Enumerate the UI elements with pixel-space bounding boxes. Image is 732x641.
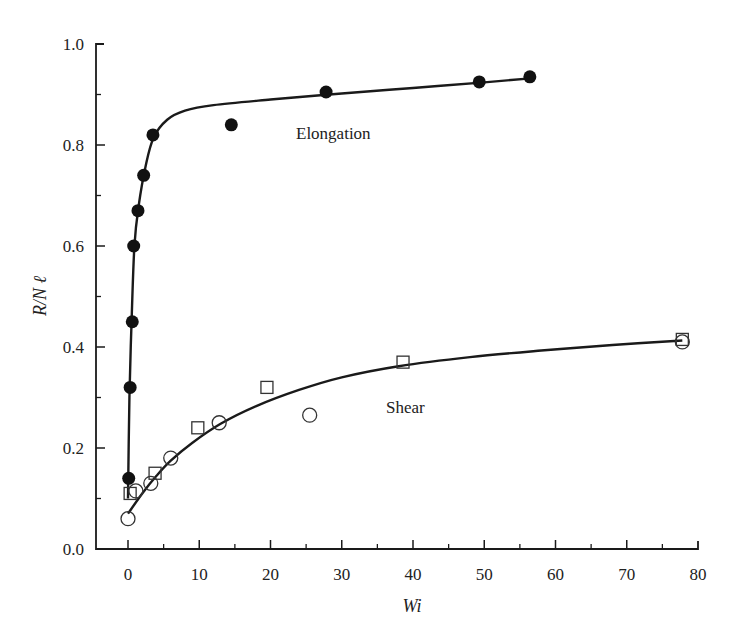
y-tick-label: 0.6 — [63, 237, 84, 256]
annotation-shear: Shear — [386, 398, 425, 417]
open-circle-marker — [121, 512, 135, 526]
x-axis-title: Wi — [402, 596, 421, 616]
x-tick-label: 40 — [405, 565, 422, 584]
open-square-marker — [261, 381, 273, 393]
open-circle-marker — [144, 476, 158, 490]
y-tick-label: 0.8 — [63, 136, 84, 155]
filled-circle-marker — [131, 204, 144, 217]
x-axis-ticks: 01020304050607080 — [124, 540, 707, 584]
filled-circle-marker — [122, 472, 135, 485]
x-tick-label: 60 — [547, 565, 564, 584]
y-tick-label: 0.2 — [63, 439, 84, 458]
filled-circle-marker — [126, 315, 139, 328]
filled-circle-marker — [523, 70, 536, 83]
data-markers — [121, 70, 689, 525]
axes — [96, 44, 698, 549]
filled-circle-marker — [127, 240, 140, 253]
x-tick-label: 50 — [476, 565, 493, 584]
y-tick-label: 0.4 — [63, 338, 85, 357]
y-axis-title: R/N ℓ — [30, 275, 50, 317]
annotation-elongation: Elongation — [296, 124, 371, 143]
x-tick-label: 10 — [191, 565, 208, 584]
filled-circle-marker — [473, 75, 486, 88]
x-tick-label: 80 — [690, 565, 707, 584]
open-circle-marker — [164, 451, 178, 465]
x-tick-label: 20 — [262, 565, 279, 584]
y-tick-label: 0.0 — [63, 540, 84, 559]
filled-circle-marker — [146, 128, 159, 141]
filled-circle-marker — [137, 169, 150, 182]
open-circle-marker — [212, 416, 226, 430]
open-circle-marker — [675, 335, 689, 349]
chart: 01020304050607080 0.00.20.40.60.81.0 Wi … — [0, 0, 732, 641]
filled-circle-marker — [320, 85, 333, 98]
fit-curves — [128, 78, 682, 513]
y-axis-ticks: 0.00.20.40.60.81.0 — [63, 35, 105, 559]
filled-circle-marker — [124, 381, 137, 394]
y-tick-label: 1.0 — [63, 35, 84, 54]
fit-curve-shear — [128, 340, 682, 513]
open-square-marker — [192, 422, 204, 434]
open-circle-marker — [303, 408, 317, 422]
x-tick-label: 30 — [333, 565, 350, 584]
x-tick-label: 0 — [124, 565, 133, 584]
axis-lines — [96, 44, 698, 549]
x-tick-label: 70 — [618, 565, 635, 584]
filled-circle-marker — [225, 118, 238, 131]
